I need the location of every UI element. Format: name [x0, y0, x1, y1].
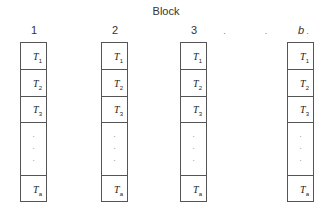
block-cell-ellipsis: ···	[102, 123, 127, 176]
column-label-2: 2	[101, 24, 129, 36]
block-cell-t3: T3	[21, 97, 46, 123]
block-cell-t2: T2	[102, 70, 127, 97]
block-cell-t1: T1	[288, 43, 313, 70]
block-cell-t1: T1	[181, 43, 206, 70]
block-cell-t1: T1	[102, 43, 127, 70]
block-cell-t3: T3	[181, 97, 206, 123]
column-label-3: 3	[180, 24, 208, 36]
block-cell-ta: Ta	[21, 176, 46, 203]
block-cell-t2: T2	[288, 70, 313, 97]
block-cell-t1: T1	[21, 43, 46, 70]
block-column-3: T1 T2 T3 ··· Ta	[180, 42, 207, 202]
diagram-title: Block	[0, 5, 332, 17]
block-cell-t3: T3	[288, 97, 313, 123]
block-cell-ellipsis: ···	[288, 123, 313, 176]
column-label-1: 1	[20, 24, 48, 36]
column-label-b: b	[287, 24, 315, 36]
block-cell-ta: Ta	[181, 176, 206, 203]
block-cell-t2: T2	[21, 70, 46, 97]
block-cell-ellipsis: ···	[21, 123, 46, 176]
block-column-2: T1 T2 T3 ··· Ta	[101, 42, 128, 202]
block-cell-ta: Ta	[288, 176, 313, 203]
block-column-1: T1 T2 T3 ··· Ta	[20, 42, 47, 202]
block-cell-t2: T2	[181, 70, 206, 97]
block-cell-ta: Ta	[102, 176, 127, 203]
block-column-b: T1 T2 T3 ··· Ta	[287, 42, 314, 202]
block-cell-ellipsis: ···	[181, 123, 206, 176]
block-cell-t3: T3	[102, 97, 127, 123]
